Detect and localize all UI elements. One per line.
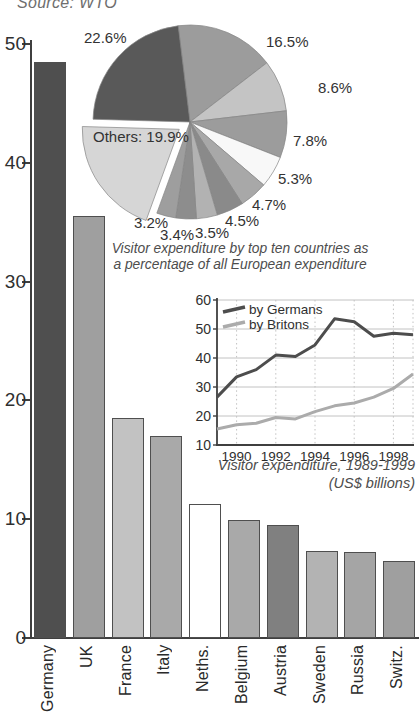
pie-label-4-7: 4.7% bbox=[252, 196, 286, 213]
pie-label-4-5: 4.5% bbox=[225, 212, 259, 229]
bar-y-tick-label: 30 bbox=[0, 272, 26, 292]
pie-caption-line2: a percentage of all European expenditure bbox=[88, 257, 392, 273]
pie-label-5-3: 5.3% bbox=[278, 170, 312, 187]
bar-category-label: Neths. bbox=[194, 645, 216, 721]
bar-neths bbox=[189, 504, 221, 638]
bar-category-label: UK bbox=[78, 645, 100, 721]
legend-swatch bbox=[223, 307, 245, 312]
inset-y-tick-label: 10 bbox=[195, 437, 211, 453]
bar-category-label: Austria bbox=[272, 645, 294, 721]
bar-uk bbox=[73, 216, 105, 638]
bar-category-label: Russia bbox=[349, 645, 371, 721]
bar-category-label: Sweden bbox=[311, 645, 333, 721]
bar-y-tick-label: 20 bbox=[0, 390, 26, 410]
bar-y-tick-label: 40 bbox=[0, 153, 26, 173]
bar-france bbox=[112, 418, 144, 638]
legend-label: by Germans bbox=[249, 302, 323, 317]
inset-y-tick-label: 60 bbox=[195, 292, 211, 308]
bar-austria bbox=[267, 525, 299, 638]
pie-label-16-5: 16.5% bbox=[266, 33, 309, 50]
bar-russia bbox=[344, 552, 376, 638]
pie-caption-line1: Visitor expenditure by top ten countries… bbox=[88, 241, 392, 257]
inset-y-tick-label: 20 bbox=[195, 408, 211, 424]
bar-y-tick-label: 50 bbox=[0, 34, 26, 54]
pie-label-3-5: 3.5% bbox=[195, 224, 229, 241]
bar-y-axis bbox=[30, 40, 32, 639]
bar-category-label: Italy bbox=[155, 645, 177, 721]
scanned-figure-page: Source: WTO 01020304050GermanyUKFranceIt… bbox=[0, 0, 419, 723]
bar-germany bbox=[34, 62, 66, 638]
inset-caption-line1: Visitor expenditure, 1989-1999 bbox=[165, 456, 415, 474]
inset-y-tick-label: 50 bbox=[195, 321, 211, 337]
pie-label-7-8: 7.8% bbox=[293, 132, 327, 149]
bar-belgium bbox=[228, 520, 260, 638]
pie-caption: Visitor expenditure by top ten countries… bbox=[88, 241, 392, 272]
inset-line-chart: 10203040506019901992199419961998by Germa… bbox=[190, 290, 419, 480]
inset-caption-line2: (US$ billions) bbox=[165, 474, 415, 492]
inset-y-tick-label: 40 bbox=[195, 350, 211, 366]
pie-label-8-6: 8.6% bbox=[318, 79, 352, 96]
bar-category-label: France bbox=[117, 645, 139, 721]
legend-label: by Britons bbox=[249, 317, 309, 332]
bar-switz bbox=[383, 561, 415, 638]
bar-category-label: Germany bbox=[39, 645, 61, 721]
bar-category-label: Belgium bbox=[233, 645, 255, 721]
legend-swatch bbox=[223, 322, 245, 327]
pie-label-22-6: 22.6% bbox=[84, 29, 127, 46]
bar-y-tick-label: 0 bbox=[0, 628, 26, 648]
pie-label-others: Others: 19.9% bbox=[93, 128, 189, 145]
inset-y-tick-label: 30 bbox=[195, 379, 211, 395]
bar-y-tick-label: 10 bbox=[0, 509, 26, 529]
pie-label-3-2: 3.2% bbox=[134, 214, 168, 231]
inset-caption: Visitor expenditure, 1989-1999 (US$ bill… bbox=[165, 456, 415, 492]
bar-category-label: Switz. bbox=[388, 645, 410, 721]
bar-sweden bbox=[306, 551, 338, 638]
